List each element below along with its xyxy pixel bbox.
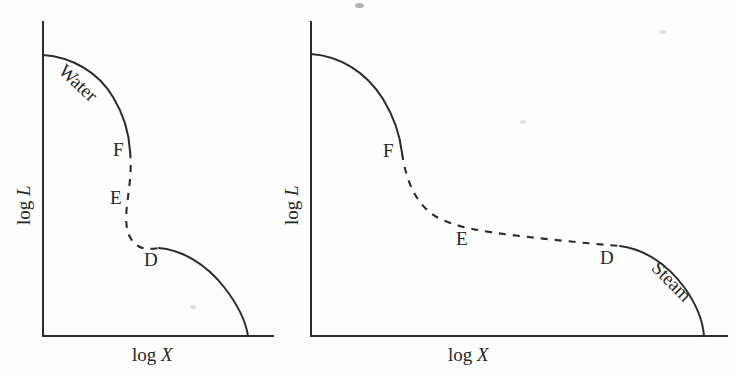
right-y-axis-label-prefix: log [281, 196, 302, 225]
right-unstable-curve [402, 153, 620, 246]
right-y-axis-label-symbol: L [281, 185, 302, 196]
right-x-axis-label-prefix: log [448, 344, 477, 365]
right-water-curve [311, 54, 402, 153]
figure-canvas: log L log X Water F E D log L log X Stea… [0, 0, 737, 376]
right-y-axis-label: log L [282, 185, 301, 225]
left-y-axis-label-symbol: L [13, 185, 34, 196]
left-y-axis-label-prefix: log [13, 196, 34, 225]
right-point-label-f: F [383, 141, 394, 160]
right-x-axis-label-symbol: X [477, 344, 489, 365]
left-x-axis-label-symbol: X [161, 344, 173, 365]
left-unstable-curve [126, 151, 159, 249]
right-point-label-d: D [600, 248, 614, 267]
left-x-axis-label-prefix: log [132, 344, 161, 365]
left-steam-curve [159, 248, 248, 336]
right-point-label-e: E [456, 229, 468, 248]
left-point-label-d: D [144, 250, 158, 269]
left-x-axis-label: log X [132, 345, 173, 364]
right-x-axis-label: log X [448, 345, 489, 364]
left-y-axis-label: log L [14, 185, 33, 225]
left-point-label-e: E [110, 188, 122, 207]
left-point-label-f: F [113, 140, 124, 159]
